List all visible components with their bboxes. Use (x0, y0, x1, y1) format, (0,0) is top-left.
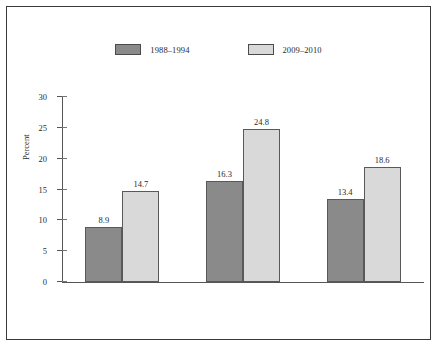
plot-area: 0510152025308.914.7Non-Hispanic white16.… (62, 97, 424, 282)
y-axis-title: Percent (21, 135, 31, 161)
y-axis-tick-label: 30 (39, 92, 48, 102)
y-axis-tick-inner (62, 189, 67, 190)
bar-value-label: 16.3 (217, 169, 232, 179)
y-axis-tick-inner (62, 281, 67, 282)
bar: 16.3 (206, 181, 243, 282)
bar-value-label: 14.7 (133, 179, 148, 189)
bar-value-label: 24.8 (254, 117, 269, 127)
legend-label-1988-1994: 1988–1994 (150, 45, 189, 55)
y-axis-tick-label: 10 (39, 215, 48, 225)
y-axis-tick-label: 15 (39, 185, 48, 195)
bar: 13.4 (327, 199, 364, 282)
y-axis-tick-inner (62, 96, 67, 97)
legend-entry-2009-2010: 2009–2010 (248, 44, 322, 55)
y-axis-tick-label: 25 (39, 123, 48, 133)
bar: 14.7 (122, 191, 159, 282)
y-axis-tick-inner (62, 127, 67, 128)
bar: 18.6 (364, 167, 401, 282)
bar: 24.8 (243, 129, 280, 282)
y-axis-tick-inner (62, 158, 67, 159)
y-axis-tick-label: 20 (39, 154, 48, 164)
y-axis-tick-inner (62, 250, 67, 251)
x-axis-line (62, 282, 424, 283)
y-axis-tick-inner (62, 219, 67, 220)
bar-value-label: 18.6 (375, 155, 390, 165)
chart-legend: 1988–1994 2009–2010 (0, 44, 437, 55)
legend-entry-1988-1994: 1988–1994 (115, 44, 189, 55)
legend-swatch-1988-1994 (115, 44, 141, 55)
bar: 8.9 (85, 227, 122, 282)
bar-value-label: 13.4 (338, 187, 353, 197)
legend-swatch-2009-2010 (248, 44, 274, 55)
y-axis-tick-label: 5 (43, 246, 47, 256)
bar-value-label: 8.9 (99, 215, 110, 225)
legend-label-2009-2010: 2009–2010 (283, 45, 322, 55)
chart-figure: 1988–1994 2009–2010 Percent 051015202530… (0, 0, 437, 346)
y-axis-tick-label: 0 (43, 277, 47, 287)
